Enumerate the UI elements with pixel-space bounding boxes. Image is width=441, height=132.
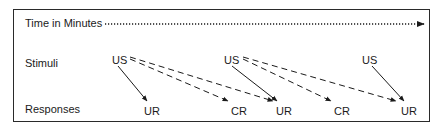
arrows-layer <box>0 0 441 132</box>
dashed-arrow-us1-ur2 <box>130 57 273 101</box>
dashed-arrow-us2-cr2 <box>243 59 331 101</box>
dashed-arrow-us2-ur3 <box>243 57 396 101</box>
dashed-arrow-us1-cr1 <box>130 59 228 101</box>
solid-arrow-us3-ur3 <box>372 66 404 101</box>
solid-arrow-us1-ur1 <box>118 66 147 101</box>
